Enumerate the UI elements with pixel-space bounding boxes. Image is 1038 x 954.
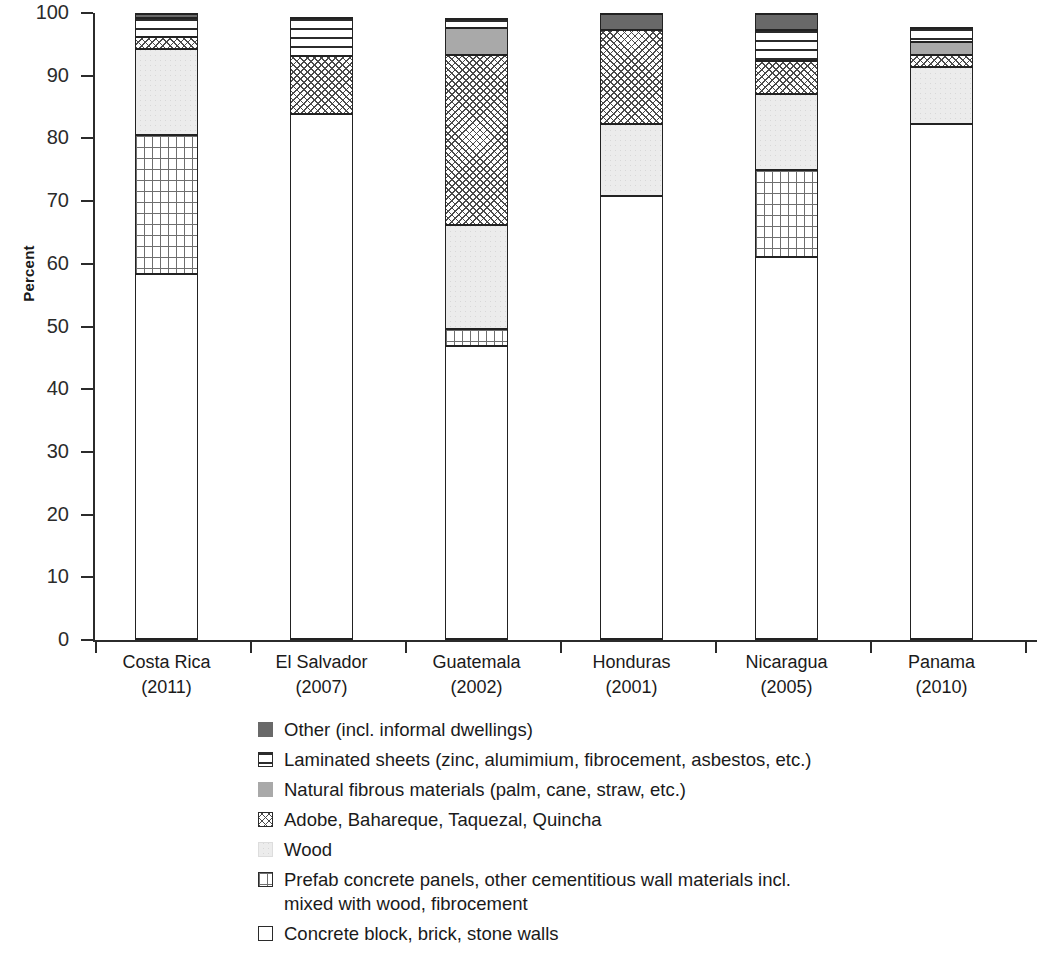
category-name: Nicaragua [745, 652, 827, 672]
bar-guatemala[interactable] [445, 13, 508, 640]
y-axis-label: Percent [20, 224, 37, 324]
y-axis-tick [81, 388, 93, 390]
y-axis-tick [81, 137, 93, 139]
category-year: (2010) [862, 675, 1022, 700]
category-year: (2007) [242, 675, 402, 700]
segment-adobe[interactable] [755, 60, 818, 93]
segment-concrete[interactable] [910, 123, 973, 640]
legend-swatch-prefab-icon [258, 872, 273, 887]
y-axis-tick [81, 514, 93, 516]
x-axis-label-honduras: Honduras(2001) [552, 650, 712, 700]
bar-nicaragua[interactable] [755, 13, 818, 640]
category-year: (2002) [397, 675, 557, 700]
segment-concrete[interactable] [755, 256, 818, 640]
segment-prefab[interactable] [445, 328, 508, 345]
category-year: (2001) [552, 675, 712, 700]
y-axis-tick-label: 0 [21, 629, 69, 649]
category-name: Costa Rica [122, 652, 210, 672]
x-axis-label-panama: Panama(2010) [862, 650, 1022, 700]
x-axis-label-guatemala: Guatemala(2002) [397, 650, 557, 700]
bar-el-salvador[interactable] [290, 13, 353, 640]
x-axis-label-el-salvador: El Salvador(2007) [242, 650, 402, 700]
legend-item-other[interactable]: Other (incl. informal dwellings) [258, 718, 1018, 742]
category-name: Panama [908, 652, 975, 672]
segment-concrete[interactable] [290, 113, 353, 640]
segment-adobe[interactable] [445, 54, 508, 223]
chart-legend: Other (incl. informal dwellings)Laminate… [258, 718, 1018, 952]
segment-wood[interactable] [445, 224, 508, 329]
segment-adobe[interactable] [135, 36, 198, 48]
legend-swatch-wood-icon [258, 842, 273, 857]
legend-label: Natural fibrous materials (palm, cane, s… [284, 778, 686, 802]
segment-prefab[interactable] [755, 169, 818, 256]
category-name: El Salvador [275, 652, 367, 672]
legend-swatch-other-icon [258, 722, 273, 737]
y-axis-tick-label: 60 [21, 253, 69, 273]
y-axis-tick-label: 50 [21, 316, 69, 336]
x-axis-label-nicaragua: Nicaragua(2005) [707, 650, 867, 700]
segment-concrete[interactable] [135, 273, 198, 640]
category-year: (2011) [87, 675, 247, 700]
legend-label: Laminated sheets (zinc, alumimium, fibro… [284, 748, 811, 772]
legend-swatch-laminated-icon [258, 752, 273, 767]
category-year: (2005) [707, 675, 867, 700]
segment-laminated[interactable] [290, 17, 353, 55]
legend-item-laminated[interactable]: Laminated sheets (zinc, alumimium, fibro… [258, 748, 1018, 772]
y-axis-tick-label: 30 [21, 441, 69, 461]
plot-area [93, 13, 1038, 640]
legend-item-prefab[interactable]: Prefab concrete panels, other cementitio… [258, 868, 1018, 916]
y-axis-tick-label: 20 [21, 504, 69, 524]
y-axis-tick [81, 576, 93, 578]
x-axis-label-costa-rica: Costa Rica(2011) [87, 650, 247, 700]
segment-other[interactable] [135, 13, 198, 17]
y-axis-tick-label: 90 [21, 65, 69, 85]
segment-fibrous[interactable] [910, 41, 973, 55]
category-name: Guatemala [432, 652, 520, 672]
x-axis-line [93, 640, 1037, 642]
segment-adobe[interactable] [290, 55, 353, 113]
legend-swatch-concrete-icon [258, 926, 273, 941]
segment-adobe[interactable] [600, 29, 663, 123]
segment-concrete[interactable] [600, 195, 663, 640]
legend-swatch-adobe-icon [258, 812, 273, 827]
bar-honduras[interactable] [600, 13, 663, 640]
legend-label: Adobe, Bahareque, Taquezal, Quincha [284, 808, 601, 832]
legend-label: Other (incl. informal dwellings) [284, 718, 533, 742]
legend-label: Concrete block, brick, stone walls [284, 922, 559, 946]
legend-swatch-fibrous-icon [258, 782, 273, 797]
y-axis-tick [81, 200, 93, 202]
segment-wood[interactable] [600, 123, 663, 194]
segment-fibrous[interactable] [445, 27, 508, 54]
y-axis-tick-label: 70 [21, 190, 69, 210]
segment-wood[interactable] [135, 48, 198, 135]
segment-laminated[interactable] [445, 18, 508, 27]
y-axis-tick [81, 326, 93, 328]
segment-prefab[interactable] [135, 134, 198, 273]
segment-adobe[interactable] [910, 54, 973, 66]
legend-item-fibrous[interactable]: Natural fibrous materials (palm, cane, s… [258, 778, 1018, 802]
legend-item-adobe[interactable]: Adobe, Bahareque, Taquezal, Quincha [258, 808, 1018, 832]
y-axis-tick-label: 80 [21, 127, 69, 147]
legend-label: Prefab concrete panels, other cementitio… [284, 868, 844, 916]
y-axis-tick [81, 12, 93, 14]
y-axis-tick [81, 639, 93, 641]
bar-costa-rica[interactable] [135, 13, 198, 640]
segment-other[interactable] [755, 13, 818, 29]
segment-other[interactable] [600, 13, 663, 29]
category-name: Honduras [592, 652, 670, 672]
segment-laminated[interactable] [910, 27, 973, 41]
segment-concrete[interactable] [445, 345, 508, 640]
legend-item-concrete[interactable]: Concrete block, brick, stone walls [258, 922, 1018, 946]
y-axis-tick-label: 100 [21, 2, 69, 22]
y-axis-tick-label: 40 [21, 378, 69, 398]
legend-item-wood[interactable]: Wood [258, 838, 1018, 862]
legend-label: Wood [284, 838, 332, 862]
y-axis-tick-label: 10 [21, 566, 69, 586]
segment-wood[interactable] [910, 66, 973, 122]
bar-panama[interactable] [910, 13, 973, 640]
segment-wood[interactable] [755, 93, 818, 169]
segment-laminated[interactable] [135, 17, 198, 36]
x-axis-tick [1025, 642, 1027, 653]
segment-laminated[interactable] [755, 29, 818, 60]
